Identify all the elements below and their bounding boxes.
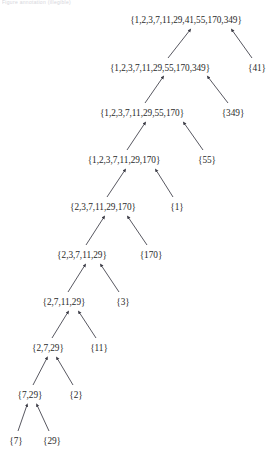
edge-arrow [208,77,228,103]
set-node-s11: {11} [90,343,108,354]
edge-arrow [52,312,68,338]
edge-arrow [18,405,27,431]
set-node-s170: {170} [140,250,163,261]
set-node-n7: {2,7,11,29} [43,297,86,308]
set-node-s29: {29} [43,436,61,447]
set-node-s7: {7} [9,436,22,447]
edge-arrow [107,170,125,197]
set-node-n5: {2,3,7,11,29,170} [70,202,136,213]
edge-arrow [33,358,47,385]
set-node-s2: {2} [69,390,82,401]
edge-arrow [168,30,190,58]
edge-arrow [79,312,96,338]
set-node-n3: {1,2,3,7,11,29,55,170} [100,108,184,119]
edge-arrow [128,217,147,245]
edge-arrow [68,265,85,292]
edge-arrow [232,30,252,58]
edge-arrow [57,358,73,385]
set-node-n9: {7,29} [18,390,43,401]
set-node-n1: {1,2,3,7,11,29,41,55,170,349} [130,15,242,26]
set-node-n2: {1,2,3,7,11,29,55,170,349} [110,63,210,74]
edge-arrow [101,265,119,292]
set-node-n8: {2,7,29} [32,343,64,354]
set-node-s41: {41} [248,63,266,74]
edges-group [18,30,252,431]
set-node-s3: {3} [116,297,129,308]
edge-arrow [86,217,104,245]
edge-arrow [127,123,145,150]
edge-arrow [156,170,173,197]
set-node-s55: {55} [198,155,216,166]
edge-arrow [184,123,203,150]
set-node-s1: {1} [170,202,183,213]
lattice-diagram: Figure annotation (illegible) {1,2,3,7,1… [0,0,278,461]
set-node-n6: {2,3,7,11,29} [57,250,107,261]
edge-arrow [37,405,49,431]
set-node-s349: {349} [222,108,245,119]
set-node-n4: {1,2,3,7,11,29,170} [88,155,161,166]
edge-arrow [145,77,163,103]
